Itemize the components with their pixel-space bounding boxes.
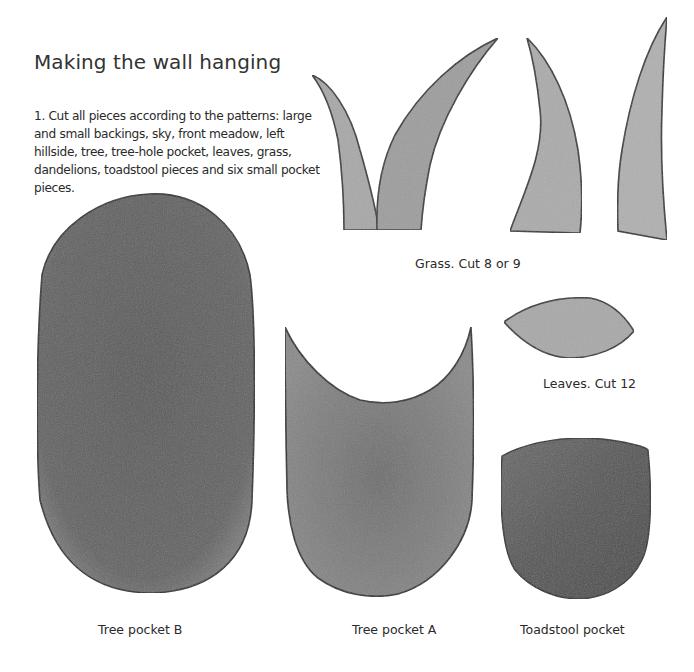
tree-pocket-a-pattern (285, 327, 473, 596)
grass-pattern-group (312, 17, 667, 240)
toadstool-pocket-caption: Toadstool pocket (520, 622, 625, 637)
grass-caption: Grass. Cut 8 or 9 (415, 256, 521, 271)
grass-blade-3 (510, 38, 582, 233)
grass-blade-1 (312, 75, 379, 230)
toadstool-pocket-pattern (501, 438, 650, 599)
grass-blade-2 (377, 38, 498, 230)
tree-pocket-b-pattern (37, 194, 254, 593)
leaf-pattern (504, 298, 634, 358)
pattern-illustrations (0, 0, 694, 672)
tree-pocket-b-caption: Tree pocket B (98, 622, 182, 637)
tree-pocket-a-caption: Tree pocket A (352, 622, 436, 637)
grass-blade-4 (617, 17, 667, 240)
leaves-caption: Leaves. Cut 12 (543, 376, 636, 391)
